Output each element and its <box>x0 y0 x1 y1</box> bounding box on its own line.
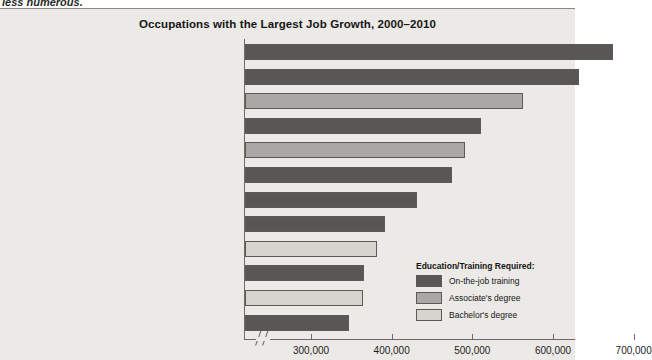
x-axis-tick-label: 700,000 <box>616 345 652 356</box>
x-axis-tick-label: 400,000 <box>374 345 410 356</box>
bar <box>245 93 523 109</box>
bar <box>245 315 349 331</box>
chart-row: Retail salespersons <box>0 114 575 138</box>
chart-row: Computer software engineers, application… <box>0 237 575 261</box>
bar <box>245 118 481 134</box>
chart-row: Computer support specialists <box>0 138 575 162</box>
bar <box>245 290 363 306</box>
chart-row: Security guards <box>0 212 575 236</box>
bar <box>245 142 465 158</box>
chart-row: Office clerks <box>0 188 575 212</box>
chart-row: Food preparers and servers <box>0 40 575 64</box>
cutoff-body-text-label: less numerous. <box>0 0 575 8</box>
bar <box>245 167 452 183</box>
cutoff-body-text: less numerous. <box>0 0 575 8</box>
bar <box>245 216 385 232</box>
x-axis-tick-label: 600,000 <box>535 345 571 356</box>
bar <box>245 265 364 281</box>
x-axis-tick-label: 300,000 <box>293 345 329 356</box>
bar <box>245 241 377 257</box>
chart-row: Cashiers <box>0 163 575 187</box>
chart-row: Registered nurses <box>0 89 575 113</box>
bar <box>245 69 579 85</box>
chart-row: Customer service representatives <box>0 65 575 89</box>
chart-figure: Occupations with the Largest Job Growth,… <box>0 8 575 360</box>
chart-row: General and operations managers <box>0 286 575 310</box>
x-axis-tick <box>634 334 635 340</box>
x-axis-tick-label: 500,000 <box>454 345 490 356</box>
bar <box>245 44 613 60</box>
bar <box>245 192 417 208</box>
chart-row: Truck drivers <box>0 311 575 335</box>
chart-row: Waiters and waitresses <box>0 261 575 285</box>
